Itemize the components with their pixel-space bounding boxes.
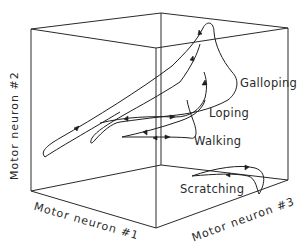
axis-label-y: Motor neuron #2 <box>8 71 21 180</box>
label-loping: Loping <box>209 106 249 120</box>
label-galloping: Galloping <box>240 76 297 90</box>
bounding-box <box>31 13 288 228</box>
label-walking: Walking <box>194 134 241 148</box>
label-scratching: Scratching <box>180 182 244 196</box>
